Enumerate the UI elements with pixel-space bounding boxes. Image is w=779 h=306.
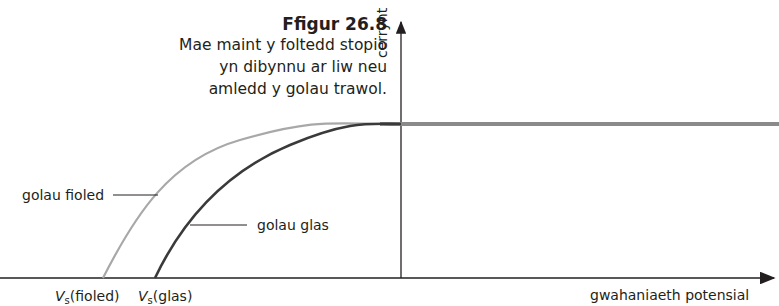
blue-curve xyxy=(155,124,401,278)
violet-curve-label: golau fioled xyxy=(22,187,104,203)
vs-blue-label: Vs(glas) xyxy=(138,288,192,306)
blue-curve-label: golau glas xyxy=(257,217,329,233)
chart: cerrynt gwahaniaeth potensial golau fiol… xyxy=(0,0,779,306)
vs-violet-label: Vs(fioled) xyxy=(55,288,120,306)
y-axis-label: cerrynt xyxy=(374,7,390,58)
x-axis-label: gwahaniaeth potensial xyxy=(590,287,749,303)
violet-curve xyxy=(103,123,380,278)
